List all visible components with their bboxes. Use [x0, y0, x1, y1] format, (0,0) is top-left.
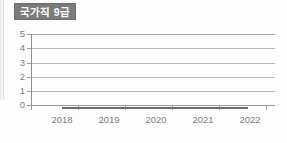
plot-area [31, 34, 275, 106]
x-tick-5 [266, 106, 267, 110]
y-tick-1 [27, 91, 31, 92]
y-label-5: 5 [8, 29, 25, 39]
gridline-4 [31, 48, 275, 49]
gridline-2 [31, 77, 275, 78]
gridline-3 [31, 63, 275, 64]
y-label-2: 2 [8, 72, 25, 82]
y-tick-2 [27, 77, 31, 78]
x-label-2018: 2018 [40, 114, 84, 125]
y-tick-3 [27, 63, 31, 64]
y-label-3: 3 [8, 58, 25, 68]
y-label-1: 1 [8, 86, 25, 96]
gridline-0 [31, 105, 275, 106]
gridline-1 [31, 91, 275, 92]
page-edge-line [3, 0, 4, 99]
chart-title-badge: 국가직 9급 [14, 3, 76, 20]
y-axis-line [31, 34, 32, 106]
series-line-national-grade9 [62, 107, 248, 109]
gridline-5 [31, 34, 275, 35]
x-label-2020: 2020 [134, 114, 178, 125]
x-label-2021: 2021 [181, 114, 225, 125]
y-label-0: 0 [8, 100, 25, 110]
x-label-2019: 2019 [87, 114, 131, 125]
y-label-4: 4 [8, 43, 25, 53]
y-tick-5 [27, 34, 31, 35]
x-tick-0 [31, 106, 32, 110]
y-tick-4 [27, 48, 31, 49]
x-label-2022: 2022 [228, 114, 272, 125]
chart-figure: 국가직 9급 5 4 3 2 1 0 2018 2019 2020 2021 2… [0, 0, 287, 143]
